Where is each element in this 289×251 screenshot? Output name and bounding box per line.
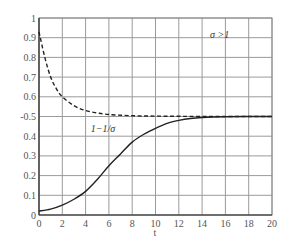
x-tick-label: 12 bbox=[174, 218, 184, 229]
x-tick-label: 16 bbox=[220, 218, 230, 229]
y-tick-label: -0.5 bbox=[20, 111, 36, 122]
x-tick-label: 0 bbox=[37, 218, 42, 229]
y-tick-label: 0.4 bbox=[24, 131, 37, 142]
x-tick-label: 18 bbox=[244, 218, 254, 229]
annotation-1: 1−1/σ bbox=[91, 123, 117, 134]
x-tick-label: 8 bbox=[130, 218, 135, 229]
y-tick-label: 0.9 bbox=[24, 32, 37, 43]
x-axis-label: t bbox=[154, 227, 157, 238]
x-tick-label: 2 bbox=[60, 218, 65, 229]
x-tick-label: 20 bbox=[267, 218, 277, 229]
y-tick-label: 0 bbox=[31, 210, 36, 221]
y-tick-label: 1 bbox=[31, 13, 36, 24]
annotations: σ >11−1/σ bbox=[91, 29, 229, 135]
x-tick-label: 6 bbox=[106, 218, 111, 229]
tick-labels: 0246810121416182000.10.20.30.4-0.50.60.7… bbox=[20, 13, 277, 230]
line-chart: 0246810121416182000.10.20.30.4-0.50.60.7… bbox=[0, 0, 289, 251]
x-tick-label: 4 bbox=[83, 218, 88, 229]
annotation-0: σ >1 bbox=[210, 29, 229, 40]
x-tick-label: 14 bbox=[197, 218, 207, 229]
y-tick-label: 0.8 bbox=[24, 52, 37, 63]
y-tick-label: 0.1 bbox=[24, 190, 37, 201]
y-tick-label: 0.2 bbox=[24, 170, 37, 181]
y-tick-label: 0.3 bbox=[24, 150, 37, 161]
y-tick-label: 0.6 bbox=[24, 91, 37, 102]
y-tick-label: 0.7 bbox=[24, 72, 37, 83]
